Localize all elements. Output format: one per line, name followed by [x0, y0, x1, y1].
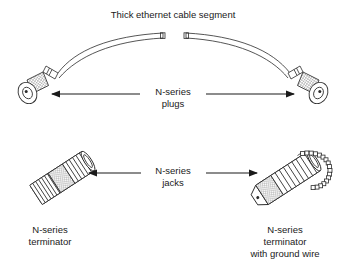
- right-caption-line3: with ground wire: [249, 248, 319, 259]
- thick-ethernet-cable-left: [58, 33, 165, 78]
- right-caption-line2: terminator: [264, 236, 307, 247]
- plugs-callout-line2: plugs: [162, 98, 185, 109]
- left-caption-line1: N-series: [32, 224, 68, 235]
- network-connector-diagram: Thick ethernet cable segment: [0, 0, 346, 273]
- n-series-terminator-ground-wire: [248, 150, 332, 210]
- n-series-plug-left: [14, 66, 58, 107]
- plugs-callout-line1: N-series: [155, 86, 191, 97]
- jacks-callout-line1: N-series: [155, 165, 191, 176]
- thick-ethernet-cable-right: [184, 33, 290, 78]
- bottom-section: N-series jacks N-series terminator N-ser…: [29, 150, 332, 259]
- n-series-plug-right: [288, 66, 332, 107]
- top-section: Thick ethernet cable segment: [14, 9, 331, 109]
- right-caption-line1: N-series: [267, 224, 303, 235]
- cable-title-label: Thick ethernet cable segment: [111, 9, 236, 20]
- diagram-canvas: Thick ethernet cable segment: [0, 0, 346, 273]
- jacks-callout-line2: jacks: [161, 177, 184, 188]
- n-series-terminator: [30, 150, 98, 205]
- left-caption-line2: terminator: [29, 236, 72, 247]
